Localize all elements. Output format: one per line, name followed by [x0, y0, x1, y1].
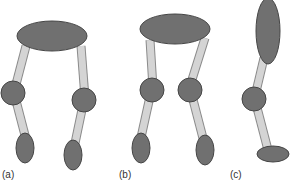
knee-joint-right — [72, 88, 96, 112]
foot-left — [16, 133, 34, 163]
foot-left — [132, 133, 150, 163]
panel-label-c: (c) — [230, 169, 242, 180]
foot — [257, 146, 289, 162]
knee-joint-left — [1, 81, 25, 105]
panel-a — [1, 21, 96, 170]
knee-joint-left — [140, 78, 164, 102]
panel-c — [242, 0, 289, 162]
panel-label-a: (a) — [2, 169, 14, 180]
body-ellipse — [17, 21, 87, 51]
panel-b — [132, 14, 214, 165]
knee-joint-right — [178, 78, 202, 102]
body-ellipse — [140, 14, 210, 44]
foot-right — [64, 140, 82, 170]
body-ellipse — [256, 0, 280, 64]
knee-joint — [242, 87, 266, 111]
panel-label-b: (b) — [119, 169, 131, 180]
legged-robot-diagram: (a) (b) (c) — [0, 0, 290, 183]
diagram-svg — [0, 0, 290, 183]
foot-right — [196, 135, 214, 165]
